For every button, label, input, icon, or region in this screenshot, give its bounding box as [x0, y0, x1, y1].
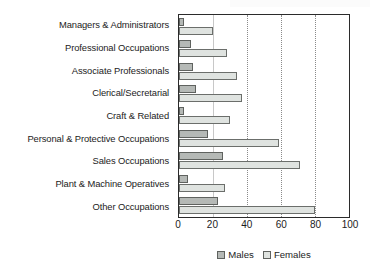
bar-females[interactable] — [179, 161, 300, 169]
bar-group — [179, 150, 349, 172]
males-swatch-icon — [217, 251, 225, 259]
bar-females[interactable] — [179, 49, 227, 57]
category-label: Clerical/Secretarial — [0, 82, 174, 105]
bar-group — [179, 37, 349, 59]
bar-males[interactable] — [179, 40, 191, 48]
category-label: Professional Occupations — [0, 37, 174, 60]
bar-group — [179, 195, 349, 217]
bar-group — [179, 82, 349, 104]
bar-males[interactable] — [179, 175, 188, 183]
bar-males[interactable] — [179, 130, 208, 138]
bar-group — [179, 15, 349, 37]
category-label: Personal & Protective Occupations — [0, 127, 174, 150]
bar-females[interactable] — [179, 94, 242, 102]
bar-females[interactable] — [179, 116, 230, 124]
bar-males[interactable] — [179, 152, 223, 160]
category-label: Managers & Administrators — [0, 14, 174, 37]
category-axis: Managers & AdministratorsProfessional Oc… — [0, 14, 174, 218]
bar-males[interactable] — [179, 197, 218, 205]
category-label: Other Occupations — [0, 195, 174, 218]
bar-males[interactable] — [179, 18, 184, 26]
bar-males[interactable] — [179, 63, 193, 71]
bar-females[interactable] — [179, 184, 225, 192]
axis-tick-label: 40 — [241, 219, 252, 230]
legend-label: Females — [274, 249, 311, 260]
legend-label: Males — [228, 249, 254, 260]
bar-group — [179, 60, 349, 82]
bar-group — [179, 172, 349, 194]
legend-item-males[interactable]: Males — [217, 249, 254, 260]
chart-legend: MalesFemales — [178, 249, 350, 260]
bar-group — [179, 105, 349, 127]
axis-tick-label: 80 — [310, 219, 321, 230]
category-label: Craft & Related — [0, 105, 174, 128]
grouped-bar-chart: Managers & AdministratorsProfessional Oc… — [0, 0, 370, 272]
axis-tick-label: 0 — [175, 219, 181, 230]
bar-group — [179, 127, 349, 149]
category-label: Plant & Machine Operatives — [0, 173, 174, 196]
females-swatch-icon — [263, 251, 271, 259]
axis-tick-label: 60 — [276, 219, 287, 230]
legend-item-females[interactable]: Females — [263, 249, 311, 260]
category-label: Associate Professionals — [0, 59, 174, 82]
axis-tick-label: 20 — [207, 219, 218, 230]
axis-tick-label: 100 — [342, 219, 359, 230]
bar-females[interactable] — [179, 27, 213, 35]
category-label: Sales Occupations — [0, 150, 174, 173]
bar-females[interactable] — [179, 72, 237, 80]
bar-females[interactable] — [179, 139, 279, 147]
bar-males[interactable] — [179, 107, 184, 115]
bar-females[interactable] — [179, 206, 315, 214]
value-axis: 020406080100 — [178, 219, 350, 235]
bars-layer — [179, 15, 349, 217]
bar-males[interactable] — [179, 85, 196, 93]
plot-area — [178, 14, 350, 218]
top-edge-artifact — [230, 0, 370, 7]
